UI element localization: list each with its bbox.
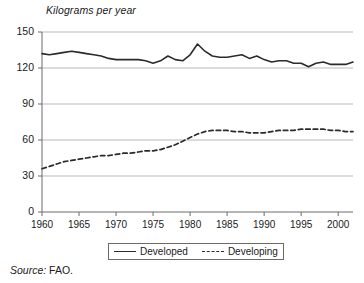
chart-figure: Kilograms per year 1501209060300 1960196… [0, 0, 364, 283]
y-tick-label: 60 [4, 133, 34, 145]
x-tick-label: 1960 [22, 219, 62, 230]
y-tick-label: 150 [4, 25, 34, 37]
y-tick-label: 120 [4, 61, 34, 73]
y-tick-label: 0 [4, 205, 34, 217]
source-note: Source: FAO. [10, 264, 73, 276]
x-tick-label: 1970 [96, 219, 136, 230]
source-label: Source: [10, 264, 46, 276]
legend-line-dashed-icon [202, 251, 224, 252]
plot-area [0, 0, 364, 283]
y-tick-marks [38, 32, 42, 212]
x-tick-label: 1975 [133, 219, 173, 230]
y-tick-label: 90 [4, 97, 34, 109]
legend-item-developing: Developing [202, 246, 278, 257]
chart-legend: Developed Developing [108, 243, 284, 260]
x-tick-label: 1980 [170, 219, 210, 230]
x-tick-label: 1995 [281, 219, 321, 230]
series-line-developing [42, 129, 353, 169]
source-value: FAO. [46, 264, 73, 276]
legend-item-developed: Developed [114, 246, 188, 257]
x-tick-marks [42, 212, 338, 216]
axis-lines [42, 32, 353, 212]
legend-label-developed: Developed [140, 246, 188, 257]
legend-line-solid-icon [114, 251, 136, 252]
x-tick-label: 1985 [207, 219, 247, 230]
data-series-group [42, 44, 353, 169]
x-tick-label: 2000 [318, 219, 358, 230]
legend-label-developing: Developing [228, 246, 278, 257]
y-tick-label: 30 [4, 169, 34, 181]
x-tick-label: 1990 [244, 219, 284, 230]
series-line-developed [42, 44, 353, 67]
x-tick-label: 1965 [59, 219, 99, 230]
